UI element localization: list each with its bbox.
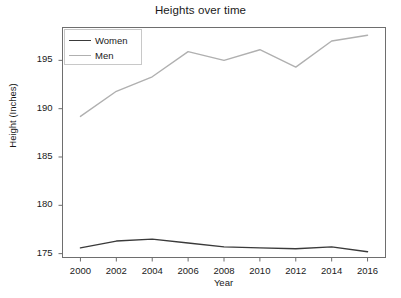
x-axis-label: Year <box>62 277 385 288</box>
y-axis-tick-label: 185 <box>13 150 53 161</box>
y-axis-tick-label: 180 <box>13 198 53 209</box>
legend-swatch-women <box>69 40 91 41</box>
plot-area <box>0 0 401 298</box>
y-axis-tick-label: 190 <box>13 102 53 113</box>
x-axis-tick-label: 2012 <box>276 265 316 276</box>
x-axis-tick-label: 2004 <box>132 265 172 276</box>
series-line-women <box>80 239 367 252</box>
y-axis-tick-label: 175 <box>13 247 53 258</box>
x-axis-tick-label: 2000 <box>60 265 100 276</box>
chart-figure: Heights over time Height (Inches) 175180… <box>0 0 401 298</box>
chart-legend: WomenMen <box>64 29 142 65</box>
x-axis-tick-label: 2014 <box>312 265 352 276</box>
legend-label: Women <box>95 33 128 48</box>
legend-swatch-men <box>69 55 91 56</box>
x-axis-tick-label: 2008 <box>204 265 244 276</box>
legend-item-women: Women <box>69 33 141 48</box>
legend-label: Men <box>95 48 113 63</box>
y-axis-tick-label: 195 <box>13 53 53 64</box>
legend-item-men: Men <box>69 48 141 63</box>
x-axis-tick-label: 2010 <box>240 265 280 276</box>
x-axis-tick-label: 2006 <box>168 265 208 276</box>
x-axis-tick-label: 2002 <box>96 265 136 276</box>
x-axis-tick-label: 2016 <box>348 265 388 276</box>
